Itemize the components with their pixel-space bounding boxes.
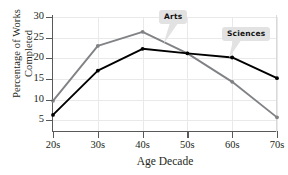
x-axis-tick-label: 40s	[123, 139, 163, 150]
data-point	[230, 56, 234, 60]
y-axis-tick-label: 25	[22, 31, 44, 42]
x-axis-tick-label: 60s	[212, 139, 252, 150]
y-axis-tick-label: 10	[22, 93, 44, 104]
data-point	[230, 80, 234, 84]
x-axis-tick	[277, 132, 278, 138]
chart-container: Percentage of Works Completed Arts Scien…	[0, 0, 288, 175]
y-axis-tick-label: 15	[22, 72, 44, 83]
data-point	[141, 47, 145, 51]
data-point	[141, 30, 145, 34]
series-line-arts	[53, 32, 277, 118]
data-point	[96, 69, 100, 73]
data-point	[51, 113, 55, 117]
y-axis-tick	[46, 100, 53, 101]
y-axis-tick-label: 5	[22, 113, 44, 124]
data-point	[186, 51, 190, 55]
annotation-sciences: Sciences	[222, 27, 270, 41]
x-axis-tick-label: 20s	[33, 139, 73, 150]
x-axis-tick-label: 70s	[257, 139, 288, 150]
x-axis-tick-label: 30s	[78, 139, 118, 150]
x-axis-tick	[98, 132, 99, 138]
annotation-pointer	[164, 21, 180, 44]
data-point	[275, 76, 279, 80]
x-axis-tick	[143, 132, 144, 138]
x-axis-tick	[187, 132, 188, 138]
annotation-pointer	[229, 38, 243, 58]
y-axis-tick	[46, 79, 53, 80]
data-point	[275, 115, 279, 119]
y-axis-tick	[46, 120, 53, 121]
x-axis-tick	[53, 132, 54, 138]
x-axis-title: Age Decade	[53, 155, 277, 167]
y-axis-tick-label: 30	[22, 10, 44, 21]
y-axis-tick	[46, 38, 53, 39]
data-point	[96, 44, 100, 48]
y-axis-tick	[46, 17, 53, 18]
y-axis-tick	[46, 58, 53, 59]
y-axis-tick-label: 20	[22, 51, 44, 62]
x-axis-tick	[232, 132, 233, 138]
annotation-arts: Arts	[159, 10, 187, 24]
x-axis-tick-label: 50s	[167, 139, 207, 150]
